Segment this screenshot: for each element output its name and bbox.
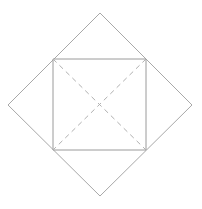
geometry-figure <box>0 0 202 209</box>
geometry-canvas <box>0 0 202 209</box>
dashed-diagonals-group <box>53 59 146 150</box>
